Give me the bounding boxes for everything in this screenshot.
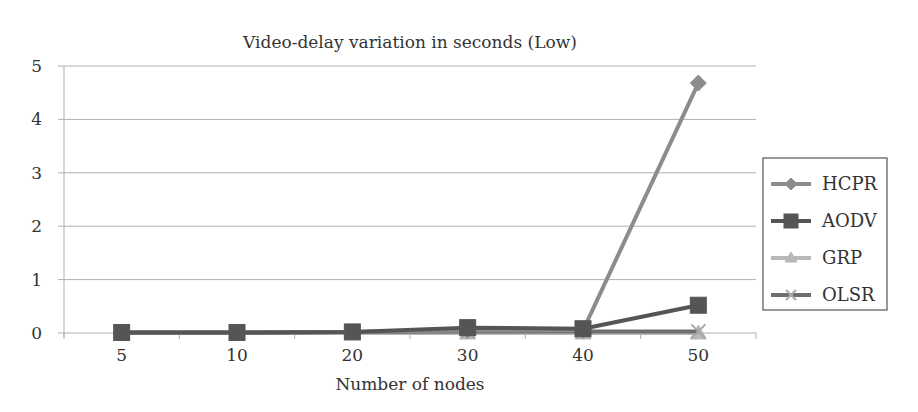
x-axis: 51020304050: [64, 333, 756, 365]
square-marker: [114, 324, 130, 340]
square-marker: [784, 214, 798, 228]
series-layer: [114, 75, 707, 340]
y-tick-label: 3: [31, 163, 42, 183]
gridlines: [58, 66, 756, 337]
y-tick-label: 0: [31, 323, 42, 343]
square-marker: [690, 297, 706, 313]
legend-label: HCPR: [822, 173, 878, 194]
chart: Video-delay variation in seconds (Low) 0…: [0, 0, 918, 412]
x-tick-label: 10: [226, 345, 248, 365]
y-tick-label: 1: [31, 270, 42, 290]
y-axis-ticks: 012345: [31, 56, 42, 343]
series-hcpr: [114, 75, 707, 340]
legend-label: GRP: [822, 247, 862, 268]
series-line: [122, 83, 699, 332]
y-tick-label: 5: [31, 56, 42, 76]
square-marker: [344, 324, 360, 340]
legend-label: AODV: [821, 210, 878, 231]
chart-title: Video-delay variation in seconds (Low): [242, 32, 577, 52]
x-tick-label: 20: [342, 345, 364, 365]
y-tick-label: 2: [31, 216, 42, 236]
x-tick-label: 5: [116, 345, 127, 365]
x-tick-label: 30: [457, 345, 479, 365]
square-marker: [229, 324, 245, 340]
diamond-marker: [690, 75, 706, 91]
y-tick-label: 4: [31, 109, 42, 129]
legend: HCPRAODVGRPOLSR: [763, 158, 887, 310]
square-marker: [460, 320, 476, 336]
legend-label: OLSR: [822, 284, 875, 305]
square-marker: [575, 321, 591, 337]
x-tick-label: 50: [688, 345, 710, 365]
x-axis-label: Number of nodes: [335, 374, 484, 394]
x-tick-label: 40: [572, 345, 594, 365]
series-line: [122, 305, 699, 332]
